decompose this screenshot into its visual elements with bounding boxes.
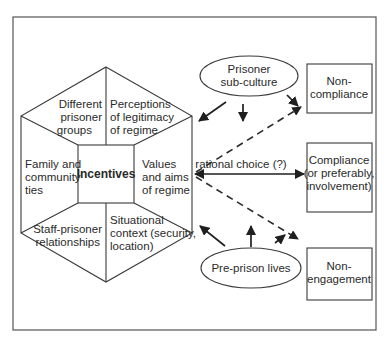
subculture-to-hexagon-arrow bbox=[199, 102, 226, 121]
svg-text:Family and: Family and bbox=[25, 158, 81, 170]
svg-text:Compliance: Compliance bbox=[309, 154, 370, 166]
svg-text:ties: ties bbox=[25, 184, 43, 196]
svg-text:(or preferably,: (or preferably, bbox=[304, 167, 375, 179]
svg-text:of regime: of regime bbox=[142, 184, 190, 196]
dashed-arrow-to-non-engagement bbox=[196, 177, 298, 239]
preprison-to-hexagon-arrow bbox=[200, 226, 225, 246]
svg-text:Non-: Non- bbox=[327, 260, 352, 272]
non-engagement-box: Non- engagement bbox=[307, 248, 372, 300]
svg-text:community: community bbox=[25, 171, 81, 183]
svg-text:involvement): involvement) bbox=[306, 180, 371, 192]
svg-text:sub-culture: sub-culture bbox=[221, 76, 278, 88]
incentives-diagram: Incentives Different prisoner groups Per… bbox=[0, 0, 388, 342]
segment-situational-context: Situational context (security, location) bbox=[110, 214, 196, 252]
svg-text:compliance: compliance bbox=[310, 88, 368, 100]
incentives-label: Incentives bbox=[77, 167, 136, 181]
preprison-to-dashed-arrow bbox=[275, 235, 285, 243]
segment-family-and-community-ties: Family and community ties bbox=[25, 158, 81, 196]
svg-text:groups: groups bbox=[57, 124, 92, 136]
svg-text:engagement: engagement bbox=[307, 273, 372, 285]
pre-prison-lives-node: Pre-prison lives bbox=[201, 248, 301, 288]
svg-text:Pre-prison lives: Pre-prison lives bbox=[211, 262, 290, 274]
svg-text:prisoner: prisoner bbox=[60, 111, 102, 123]
non-compliance-box: Non- compliance bbox=[307, 64, 372, 113]
svg-text:Different: Different bbox=[59, 98, 103, 110]
svg-text:Perceptions: Perceptions bbox=[110, 98, 171, 110]
svg-text:Situational: Situational bbox=[110, 214, 164, 226]
segment-staff-prisoner-relationships: Staff-prisoner relationships bbox=[33, 223, 102, 248]
svg-text:Values: Values bbox=[142, 158, 177, 170]
svg-text:of legitimacy: of legitimacy bbox=[110, 111, 174, 123]
compliance-box: Compliance (or preferably, involvement) bbox=[304, 143, 375, 212]
segment-values-and-aims-of-regime: Values and aims of regime bbox=[142, 158, 190, 196]
subculture-to-dashed-arrow bbox=[287, 95, 298, 106]
prisoner-sub-culture-node: Prisoner sub-culture bbox=[200, 56, 298, 96]
svg-text:context (security,: context (security, bbox=[110, 227, 196, 239]
svg-text:Non-: Non- bbox=[327, 75, 352, 87]
svg-text:location): location) bbox=[110, 240, 154, 252]
segment-different-prisoner-groups: Different prisoner groups bbox=[57, 98, 103, 136]
svg-text:and aims: and aims bbox=[142, 171, 189, 183]
svg-text:of regime: of regime bbox=[110, 124, 158, 136]
svg-text:relationships: relationships bbox=[35, 236, 100, 248]
svg-text:Staff-prisoner: Staff-prisoner bbox=[33, 223, 102, 235]
svg-text:Prisoner: Prisoner bbox=[228, 63, 271, 75]
